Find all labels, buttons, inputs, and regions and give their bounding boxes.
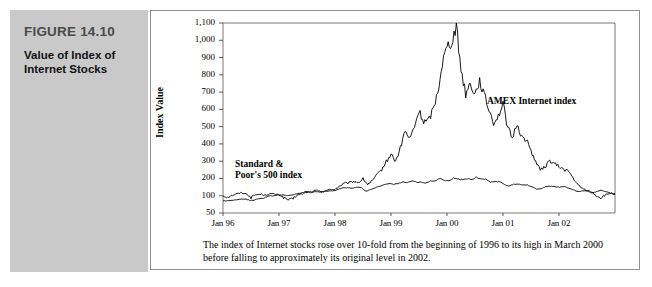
chart-area: Index Value 5010020030040050060070080090… [151,11,641,236]
series-label-sp500: Standard &Poor's 500 index [235,159,302,181]
series-label-amex: AMEX Internet index [487,96,576,107]
chart-panel: Index Value 5010020030040050060070080090… [150,10,640,270]
plot-lines [151,11,641,236]
figure-caption-sidebar: FIGURE 14.10 Value of Index of Internet … [10,10,148,272]
figure-number: FIGURE 14.10 [24,24,115,39]
chart-caption: The index of Internet stocks rose over 1… [203,239,627,264]
page-title: Value of Index of Internet Stocks [24,48,142,76]
figure-container: FIGURE 14.10 Value of Index of Internet … [0,0,652,287]
